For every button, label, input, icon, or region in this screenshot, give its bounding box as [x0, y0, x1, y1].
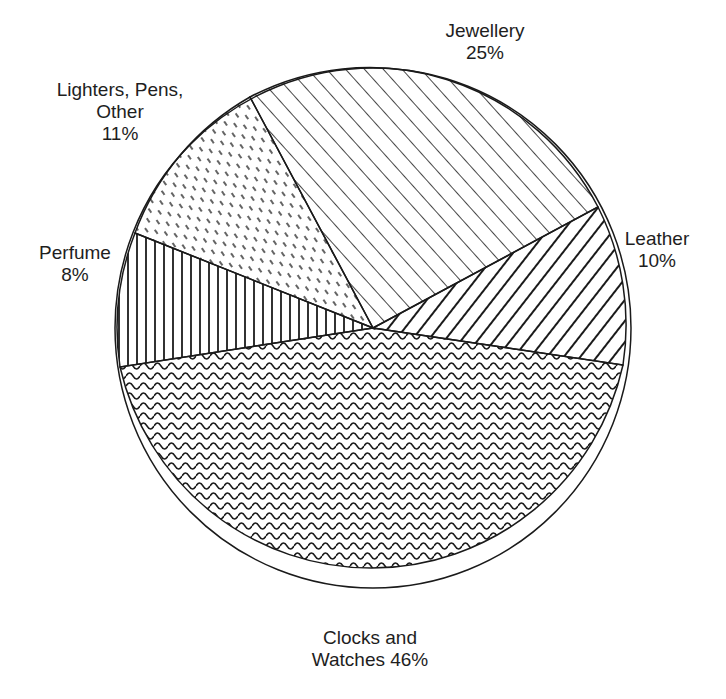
label-leather: Leather 10%	[612, 228, 702, 272]
label-clocks-line1: Clocks and	[290, 627, 450, 649]
label-clocks-and-watches: Clocks and Watches 46%	[290, 627, 450, 671]
label-jewellery: Jewellery 25%	[425, 20, 545, 64]
slice-clocks-and-watches	[120, 328, 623, 568]
label-lighters-pct: 11%	[40, 123, 200, 145]
label-leather-pct: 10%	[612, 250, 702, 272]
label-leather-name: Leather	[612, 228, 702, 250]
label-lighters-pens-other: Lighters, Pens, Other 11%	[40, 79, 200, 145]
label-jewellery-name: Jewellery	[425, 20, 545, 42]
label-lighters-line2: Other	[40, 101, 200, 123]
label-perfume-pct: 8%	[25, 264, 125, 286]
label-perfume-name: Perfume	[25, 242, 125, 264]
label-lighters-line1: Lighters, Pens,	[40, 79, 200, 101]
label-perfume: Perfume 8%	[25, 242, 125, 286]
label-jewellery-pct: 25%	[425, 42, 545, 64]
label-clocks-line2: Watches 46%	[290, 649, 450, 671]
